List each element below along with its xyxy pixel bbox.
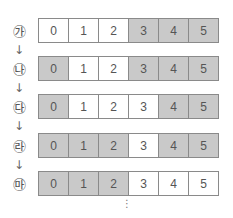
cell-0-unshaded: 0 <box>39 19 69 42</box>
cell-1-shaded: 1 <box>69 172 99 195</box>
cell-5-shaded: 5 <box>189 134 218 157</box>
row-label-1: ㉮ <box>11 22 27 38</box>
cell-3-unshaded: 3 <box>129 134 159 157</box>
cell-0-shaded: 0 <box>39 134 69 157</box>
state-row-2: 012345 <box>38 56 219 81</box>
vertical-ellipsis-icon: ⋮ <box>122 199 132 209</box>
row-label-3: ㉰ <box>11 98 27 114</box>
cell-2-shaded: 2 <box>99 172 129 195</box>
state-row-1: 012345 <box>38 18 219 43</box>
cell-1-unshaded: 1 <box>69 95 99 118</box>
down-arrow-icon: ↓ <box>13 44 25 56</box>
cell-5-shaded: 5 <box>189 95 218 118</box>
row-label-2: ㉯ <box>11 60 27 76</box>
cell-3-unshaded: 3 <box>129 95 159 118</box>
cell-2-unshaded: 2 <box>99 19 129 42</box>
cell-0-shaded: 0 <box>39 95 69 118</box>
cell-1-unshaded: 1 <box>69 19 99 42</box>
cell-3-shaded: 3 <box>129 57 159 80</box>
cell-5-shaded: 5 <box>189 57 218 80</box>
cell-5-shaded: 5 <box>189 19 218 42</box>
cell-4-shaded: 4 <box>159 134 189 157</box>
cell-2-shaded: 2 <box>99 134 129 157</box>
cell-4-shaded: 4 <box>159 19 189 42</box>
down-arrow-icon: ↓ <box>13 159 25 171</box>
cell-2-unshaded: 2 <box>99 95 129 118</box>
cell-1-unshaded: 1 <box>69 57 99 80</box>
down-arrow-icon: ↓ <box>13 82 25 94</box>
cell-5-unshaded: 5 <box>189 172 218 195</box>
cell-4-shaded: 4 <box>159 95 189 118</box>
row-label-5: ㉲ <box>11 175 27 191</box>
cell-2-unshaded: 2 <box>99 57 129 80</box>
cell-4-unshaded: 4 <box>159 172 189 195</box>
cell-0-shaded: 0 <box>39 172 69 195</box>
down-arrow-icon: ↓ <box>13 120 25 132</box>
cell-4-shaded: 4 <box>159 57 189 80</box>
state-row-5: 012345 <box>38 171 219 196</box>
cell-3-unshaded: 3 <box>129 172 159 195</box>
cell-3-shaded: 3 <box>129 19 159 42</box>
cell-1-shaded: 1 <box>69 134 99 157</box>
cell-0-shaded: 0 <box>39 57 69 80</box>
row-label-4: ㉱ <box>11 137 27 153</box>
state-row-3: 012345 <box>38 94 219 119</box>
state-row-4: 012345 <box>38 133 219 158</box>
